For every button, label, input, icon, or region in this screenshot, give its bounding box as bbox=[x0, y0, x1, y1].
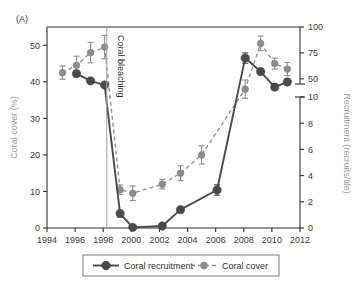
x-tick-label: 2008 bbox=[234, 235, 254, 245]
series-marker bbox=[177, 170, 184, 177]
series-marker bbox=[158, 222, 166, 230]
series-marker bbox=[176, 205, 184, 213]
series-marker bbox=[257, 40, 264, 47]
data-point bbox=[159, 179, 166, 189]
x-tick-label: 2010 bbox=[262, 235, 282, 245]
series-marker bbox=[86, 77, 94, 85]
x-tick-label: 1996 bbox=[65, 235, 85, 245]
series-marker bbox=[87, 49, 94, 56]
data-point bbox=[198, 146, 205, 164]
data-point bbox=[59, 66, 66, 79]
series-marker bbox=[271, 60, 278, 67]
data-point bbox=[87, 42, 94, 62]
series-marker bbox=[129, 190, 136, 197]
y-right-tick-label: 0 bbox=[308, 223, 313, 233]
series-marker bbox=[159, 181, 166, 188]
y-right-tick-label: 100 bbox=[308, 22, 323, 32]
series-marker bbox=[116, 209, 124, 217]
data-point bbox=[256, 67, 264, 75]
series-marker bbox=[100, 81, 108, 89]
data-point bbox=[271, 58, 278, 69]
x-tick-label: 1994 bbox=[37, 235, 57, 245]
y-right-axis-title: Recruitment (recruits/tile) bbox=[342, 93, 352, 194]
data-point bbox=[158, 222, 166, 230]
data-point bbox=[213, 185, 221, 195]
data-point bbox=[177, 166, 184, 181]
series-marker bbox=[198, 152, 205, 159]
series-marker bbox=[59, 69, 66, 76]
y-left-tick-label: 10 bbox=[30, 187, 40, 197]
x-tick-label: 2012 bbox=[290, 235, 310, 245]
series-marker bbox=[271, 83, 279, 91]
data-point bbox=[176, 205, 184, 213]
series-marker bbox=[73, 62, 80, 69]
x-tick-label: 2002 bbox=[149, 235, 169, 245]
y-right-tick-label: 8 bbox=[308, 119, 313, 129]
series-marker bbox=[241, 54, 249, 62]
data-point bbox=[129, 186, 136, 201]
figure-panel-a: (A) 199419961998200020022004200620082010… bbox=[0, 0, 357, 288]
y-right-tick-label: 4 bbox=[308, 171, 313, 181]
y-left-tick-label: 0 bbox=[35, 223, 40, 233]
series-marker bbox=[242, 86, 249, 93]
series-marker bbox=[213, 186, 221, 194]
legend-label: Coral recruitment bbox=[124, 261, 194, 271]
y-left-tick-label: 20 bbox=[30, 150, 40, 160]
x-tick-label: 2004 bbox=[178, 235, 198, 245]
coral-cover-recruitment-chart: (A) 199419961998200020022004200620082010… bbox=[0, 0, 357, 288]
y-left-axis-title: Coral cover (%) bbox=[9, 96, 19, 159]
series-marker bbox=[256, 67, 264, 75]
x-tick-label: 1998 bbox=[93, 235, 113, 245]
legend-label: Coral cover bbox=[222, 261, 268, 271]
series-marker bbox=[129, 223, 137, 231]
y-right-tick-label: 10 bbox=[308, 92, 318, 102]
bleaching-annotation-label: Coral bleaching bbox=[116, 35, 126, 98]
y-left-tick-label: 30 bbox=[30, 114, 40, 124]
y-left-tick-label: 40 bbox=[30, 77, 40, 87]
series-marker bbox=[284, 66, 291, 73]
data-point bbox=[129, 223, 137, 231]
x-tick-label: 2000 bbox=[121, 235, 141, 245]
series-marker bbox=[72, 69, 80, 77]
y-right-tick-label: 75 bbox=[308, 48, 318, 58]
data-point bbox=[284, 62, 291, 75]
x-tick-label: 2006 bbox=[206, 235, 226, 245]
data-point bbox=[100, 81, 108, 89]
y-right-tick-label: 2 bbox=[308, 197, 313, 207]
data-point bbox=[271, 83, 279, 91]
data-point bbox=[72, 69, 80, 77]
data-layer bbox=[59, 35, 291, 231]
y-right-tick-label: 50 bbox=[308, 74, 318, 84]
data-point bbox=[86, 77, 94, 85]
legend: Coral recruitmentCoral cover bbox=[83, 255, 279, 276]
legend-item-recruitment[interactable]: Coral recruitment bbox=[93, 261, 194, 271]
data-point bbox=[116, 209, 124, 217]
y-right-tick-label: 6 bbox=[308, 145, 313, 155]
series-marker bbox=[283, 78, 291, 86]
panel-label: (A) bbox=[16, 14, 28, 24]
y-left-tick-label: 50 bbox=[30, 41, 40, 51]
data-point bbox=[283, 78, 291, 86]
